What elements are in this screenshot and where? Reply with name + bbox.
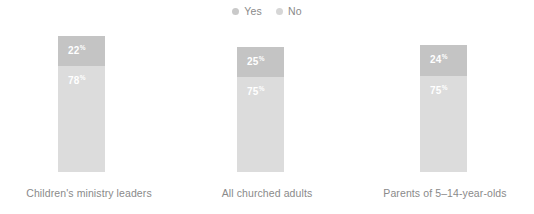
bar-segment-no-label: 78%	[68, 75, 86, 86]
bar-segment-yes[interactable]: 24%	[420, 45, 467, 76]
category-label-childrens-ministry-leaders: Children's ministry leaders	[0, 188, 178, 199]
bar-segment-no-label: 75%	[430, 85, 448, 96]
bar-group-childrens-ministry-leaders: 22% 78% Children's ministry leaders	[0, 0, 178, 214]
category-label-all-churched-adults: All churched adults	[178, 188, 356, 199]
stacked-bar-chart: 22% 78% Children's ministry leaders 25% …	[0, 0, 534, 214]
bar-segment-yes-label: 24%	[430, 54, 448, 65]
bar-segment-no[interactable]: 75%	[237, 77, 284, 172]
bar-segment-yes-label: 25%	[247, 56, 265, 67]
bar-segment-yes[interactable]: 25%	[237, 47, 284, 77]
category-label-parents-of-5-14-year-olds: Parents of 5–14-year-olds	[356, 188, 534, 199]
table-row[interactable]: 24% 75%	[420, 45, 467, 172]
bar-segment-no-label: 75%	[247, 86, 265, 97]
bar-group-parents-of-5-14-year-olds: 24% 75% Parents of 5–14-year-olds	[356, 0, 534, 214]
bar-group-all-churched-adults: 25% 75% All churched adults	[178, 0, 356, 214]
bar-segment-no[interactable]: 75%	[420, 76, 467, 172]
table-row[interactable]: 25% 75%	[237, 47, 284, 172]
bar-segment-yes[interactable]: 22%	[58, 36, 105, 66]
table-row[interactable]: 22% 78%	[58, 36, 105, 172]
bar-segment-yes-label: 22%	[68, 45, 86, 56]
bar-segment-no[interactable]: 78%	[58, 66, 105, 172]
